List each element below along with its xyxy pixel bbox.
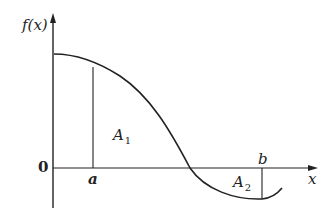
y-axis-arrow-icon [50,13,56,23]
region-a2-letter: A [233,173,244,191]
region-a2-label: A2 [233,174,251,190]
x-axis-label: x [308,172,316,187]
graph-canvas [0,0,331,211]
y-axis-label: f(x) [22,18,48,33]
region-a1-letter: A [113,126,124,144]
origin-label: 0 [38,160,48,175]
point-b-label: b [258,152,268,167]
region-a1-label: A1 [113,127,131,143]
point-a-label: a [88,172,98,187]
function-graph-diagram: f(x) 0 a b x A1 A2 [0,0,331,211]
region-a2-subscript: 2 [245,182,251,193]
region-a1-subscript: 1 [125,135,131,146]
